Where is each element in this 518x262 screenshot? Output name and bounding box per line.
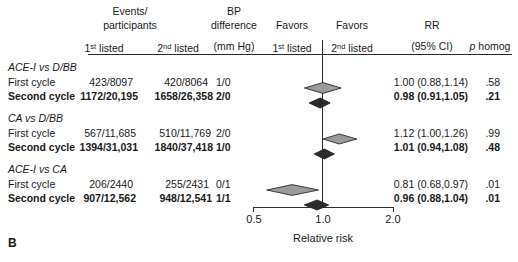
x-axis-tick (393, 207, 394, 212)
header-bp-line2: difference (211, 20, 257, 32)
header-col-second-listed: 2nd listed (157, 41, 199, 55)
header-bp-line1: BP (227, 6, 241, 18)
x-axis-tick-label: 1.0 (315, 213, 330, 225)
forest-plot: Events/ participants 1st listed 2nd list… (0, 0, 518, 262)
header-bp-line3: (mm Hg) (214, 41, 255, 53)
x-axis-tick (253, 207, 254, 212)
header-events-line2: participants (103, 20, 157, 32)
header-events-line1: Events/ (112, 6, 147, 18)
header-favors-left-line1: Favors (276, 20, 308, 32)
x-axis-tick-label: 0.5 (246, 213, 261, 225)
header-favors-right-line1: Favors (336, 20, 368, 32)
header-rr-line1: RR (424, 20, 439, 32)
group-label-ace-i-vs-d-bb: ACE-I vs D/BB (8, 61, 77, 73)
x-axis-tick-label: 2.0 (385, 213, 400, 225)
header-p-homog: p homog (470, 41, 511, 53)
panel-letter: B (8, 236, 17, 250)
x-axis-line (253, 207, 394, 208)
header-col-first-listed: 1st listed (84, 41, 123, 55)
x-axis-tick (322, 202, 323, 208)
x-axis-title: Relative risk (293, 232, 353, 244)
header-rule (88, 54, 512, 55)
header-rr-line2: (95% CI) (411, 41, 452, 53)
header-favors-left-line2: 1st listed (272, 41, 311, 55)
group-label-ca-vs-d-bb: CA vs D/BB (8, 112, 63, 124)
group-label-ace-i-vs-ca: ACE-I vs CA (8, 163, 67, 175)
header-favors-right-line2: 2nd listed (331, 41, 373, 55)
